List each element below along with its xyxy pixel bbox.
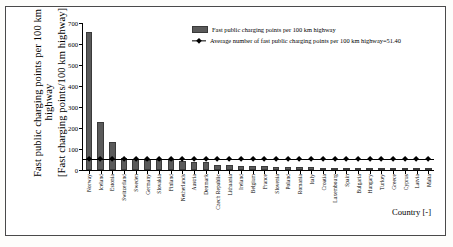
bar-slot [165,23,177,170]
figure-page: Fast public charging points per 100 km h… [0,0,453,247]
category-label: Latvia [414,174,420,188]
y-axis-tick-label: 200 [68,125,78,132]
bar-slot [376,23,388,170]
category-label: Croatia [321,174,327,191]
bar-slot [422,23,434,170]
bar-slot [95,23,107,170]
category-label: Netherlands [180,174,186,201]
bar-slot [364,23,376,170]
category-label: Romania [297,174,303,194]
y-axis-tick-mark [79,170,83,171]
category-label: Germany [145,174,151,195]
y-axis-title-line-2: [Fast charging points/100 km highway] [56,8,67,177]
bar [203,162,210,170]
bar-slot [83,23,95,170]
plot-area: 0100200300400500600700 [82,23,434,171]
y-axis-title-text-a: Fast public charging points per 100 km [32,27,43,177]
category-label-slot: Slovakia [153,173,165,219]
category-label-slot: France [259,173,271,219]
category-label: Ireland [238,174,244,190]
bar-slot [223,23,235,170]
bar-slot [235,23,247,170]
bar-slot [142,23,154,170]
category-label: Poland [285,174,291,190]
y-axis-title: Fast public charging points per 100 km h… [10,19,62,179]
category-label-slot: Germany [142,173,154,219]
bar-slot [387,23,399,170]
bar-series [83,23,434,170]
category-label-slot: Sweden [130,173,142,219]
category-label-slot: Romania [294,173,306,219]
category-label: Spain [344,174,350,187]
category-label-slot: Austria [189,173,201,219]
category-label: Estonia [109,174,115,191]
category-label: Iceland [98,174,104,191]
bar-slot [399,23,411,170]
y-axis-tick-label: 500 [68,62,78,69]
category-label: Belgium [250,174,256,193]
category-label-slot: Switzerland [118,173,130,219]
category-label-slot: Finland [165,173,177,219]
bar-slot [329,23,341,170]
bar-slot [317,23,329,170]
x-axis-category-labels: NorwayIcelandEstoniaSwitzerlandSwedenGer… [83,173,435,219]
category-label: Italy [309,174,315,184]
category-label-slot: Slovenia [271,173,283,219]
bar-slot [130,23,142,170]
category-label-slot: Iceland [95,173,107,219]
bar-slot [106,23,118,170]
bar-slot [340,23,352,170]
category-label-slot: Bulgaria [353,173,365,219]
bar-slot [247,23,259,170]
category-label-slot: Croatia [318,173,330,219]
y-axis-tick-label: 600 [68,41,78,48]
category-label-slot: Poland [282,173,294,219]
bar [86,32,93,170]
bar-slot [270,23,282,170]
bar-slot [411,23,423,170]
category-label-slot: Belgium [247,173,259,219]
category-label: Slovakia [156,174,162,194]
bar-slot [212,23,224,170]
y-axis-tick-label: 300 [68,104,78,111]
category-label-slot: Czech Republic [212,173,224,219]
bar-slot [188,23,200,170]
y-axis-tick-label: 100 [68,146,78,153]
category-label-slot: Turkey [376,173,388,219]
figure-frame: Fast public charging points per 100 km h… [5,6,446,236]
category-label-slot: Hungary [365,173,377,219]
category-label-slot: Norway [83,173,95,219]
category-label: Bulgaria [356,174,362,193]
category-label-slot: Netherlands [177,173,189,219]
y-axis-title-line-1: Fast public charging points per 100 km h… [32,27,54,177]
category-label: Luxembourg [332,174,338,203]
bar-slot [118,23,130,170]
category-label: Switzerland [121,174,127,201]
category-label: Greece [391,174,397,190]
category-label-slot: Luxembourg [329,173,341,219]
bar [97,122,104,170]
category-label: Norway [86,174,92,192]
category-label: Austria [191,174,197,191]
category-label: Denmark [203,174,209,195]
y-axis-tick-label: 0 [75,167,78,174]
bar [179,161,186,170]
x-axis-title: Country [-] [392,207,431,217]
category-label-slot: Lithuania [224,173,236,219]
category-label: Slovenia [274,174,280,194]
category-label-slot: Denmark [200,173,212,219]
category-label: France [262,174,268,189]
category-label-slot: Italy [306,173,318,219]
category-label-slot: Ireland [236,173,248,219]
bar [191,162,198,170]
category-label-slot: Estonia [106,173,118,219]
y-axis-tick-label: 700 [68,20,78,27]
category-label: Finland [168,174,174,191]
y-axis-title-text-b: highway [43,27,54,177]
bar-slot [200,23,212,170]
category-label-slot: Spain [341,173,353,219]
y-axis-tick-label: 400 [68,83,78,90]
category-label: Hungary [367,174,373,194]
bar-slot [259,23,271,170]
bar-slot [153,23,165,170]
